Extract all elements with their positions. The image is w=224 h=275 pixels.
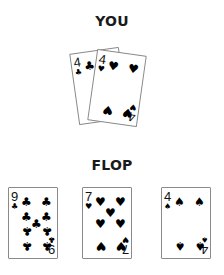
hearts-pip-icon: ♥	[115, 240, 127, 252]
flop-heading: FLOP	[0, 157, 224, 173]
spades-pip-icon: ♠	[174, 240, 186, 252]
hearts-pip-icon: ♥	[126, 63, 140, 77]
spades-icon: ♠	[164, 203, 171, 211]
clubs-pip-icon: ♣	[21, 196, 33, 208]
clubs-pip-icon: ♣	[21, 240, 33, 252]
hearts-icon: ♥	[85, 203, 92, 211]
flop-card-7-of-hearts: 7♥7♥♥♥♥♥♥♥♥	[82, 187, 132, 259]
hearts-pip-icon: ♥	[95, 240, 107, 252]
hearts-pip-icon: ♥	[107, 60, 121, 74]
clubs-pip-icon: ♣	[41, 225, 53, 237]
spades-pip-icon: ♠	[194, 240, 206, 252]
clubs-icon: ♣	[11, 203, 18, 211]
hearts-pip-icon: ♥	[95, 218, 107, 230]
hearts-icon: ♥	[97, 65, 105, 74]
clubs-icon: ♣	[74, 68, 82, 77]
hearts-pip-icon: ♥	[120, 105, 134, 119]
spades-pip-icon: ♠	[194, 196, 206, 208]
hearts-pip-icon: ♥	[101, 103, 115, 117]
flop-card-9-of-clubs: 9♣9♣♣♣♣♣♣♣♣♣♣	[8, 187, 58, 259]
clubs-pip-icon: ♣	[21, 225, 33, 237]
clubs-pip-icon: ♣	[41, 196, 53, 208]
hearts-pip-icon: ♥	[115, 218, 127, 230]
spades-pip-icon: ♠	[174, 196, 186, 208]
hole-card-4-of-hearts: 4♥4♥♥♥♥♥	[87, 49, 147, 127]
flop-card-4-of-spades: 4♠4♠♠♠♠♠	[161, 187, 211, 259]
clubs-pip-icon: ♣	[41, 240, 53, 252]
player-hand-heading: YOU	[0, 13, 224, 29]
